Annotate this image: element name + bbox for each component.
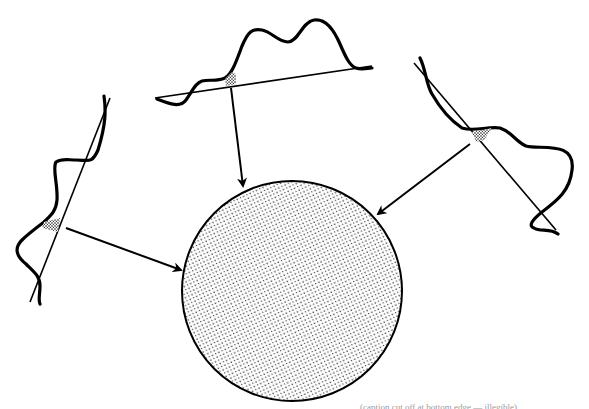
figure-caption: (caption cut off at bottom edge — illegi…	[360, 402, 589, 409]
right-profile	[414, 58, 572, 234]
top-profile-curve	[157, 20, 372, 105]
top-profile	[155, 20, 372, 105]
arrow-right	[378, 144, 470, 214]
left-profile-baseline	[30, 98, 110, 302]
stippled-disc	[182, 181, 402, 401]
right-profile-curve	[420, 58, 572, 234]
left-profile-curve	[17, 96, 105, 304]
projection-diagram	[0, 0, 589, 409]
figure-caption-text: (caption cut off at bottom edge — illegi…	[360, 402, 589, 409]
arrow-left	[66, 228, 181, 270]
arrow-top	[231, 88, 243, 186]
top-profile-shaded-region	[225, 72, 236, 86]
left-profile	[17, 96, 110, 304]
top-profile-baseline	[155, 66, 372, 98]
